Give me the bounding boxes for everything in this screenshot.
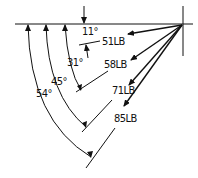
extension-line-11: [79, 41, 100, 45]
angle-label-45: 45°: [51, 75, 67, 88]
force-label-51lb: 51LB: [102, 35, 126, 48]
extension-line-45: [82, 100, 112, 132]
angle-label-54: 54°: [36, 87, 52, 100]
arc-arrow-up-icon: [62, 24, 68, 31]
force-label-58lb: 58LB: [104, 58, 128, 71]
extension-line-54: [86, 128, 115, 168]
force-arrow-71lb: [129, 25, 182, 85]
force-label-71lb: 71LB: [112, 84, 136, 97]
arc-arrow-up-icon: [43, 24, 49, 31]
angle-label-11: 11°: [82, 25, 98, 38]
arc-arrow-up-icon: [25, 24, 31, 31]
labels: 11° 51LB 31° 58LB 45° 71LB 54° 85LB: [36, 25, 138, 125]
reference-lines: [15, 6, 193, 56]
force-diagram: 11° 51LB 31° 58LB 45° 71LB 54° 85LB: [0, 0, 198, 178]
force-label-85lb: 85LB: [114, 112, 138, 125]
angle-label-31: 31°: [67, 56, 83, 69]
dimension-arrow-up-icon: [86, 45, 88, 58]
force-arrow-51lb: [128, 25, 182, 34]
